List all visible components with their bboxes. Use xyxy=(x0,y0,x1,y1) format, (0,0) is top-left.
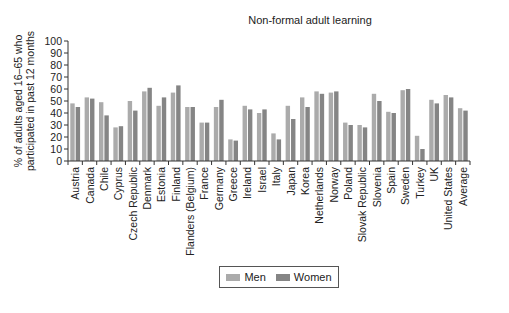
bar-women xyxy=(176,85,180,161)
bar-women xyxy=(377,101,381,161)
bar-men xyxy=(128,101,132,161)
bar-women xyxy=(162,97,166,161)
y-axis-label: % of adults aged 16–65 whoparticipated i… xyxy=(12,31,36,171)
x-category-label: Sweden xyxy=(399,167,411,205)
bar-men xyxy=(257,113,261,161)
bar-women xyxy=(305,107,309,161)
bar-men xyxy=(156,106,160,161)
bar-men xyxy=(458,108,462,161)
legend-swatch-women xyxy=(276,274,290,281)
y-tick-label: 20 xyxy=(50,131,62,143)
bar-men xyxy=(444,95,448,161)
bar-men xyxy=(415,136,419,161)
bar-women xyxy=(234,141,238,161)
x-category-label: Czech Republic xyxy=(127,167,139,241)
bar-men xyxy=(271,133,275,161)
bar-men xyxy=(343,123,347,161)
legend-label-women: Women xyxy=(294,271,332,283)
x-category-label: Poland xyxy=(342,167,354,200)
x-category-label: Norway xyxy=(328,166,340,202)
bar-women xyxy=(392,113,396,161)
x-category-label: Italy xyxy=(270,166,282,186)
x-category-label: Israel xyxy=(256,167,268,193)
bar-men xyxy=(85,97,89,161)
x-category-label: Netherlands xyxy=(313,167,325,224)
x-category-label: Greece xyxy=(227,167,239,202)
bar-women xyxy=(277,139,281,161)
bar-women xyxy=(191,107,195,161)
bar-men xyxy=(400,90,404,161)
x-category-label: Slovak Republic xyxy=(356,167,368,242)
bar-women xyxy=(76,107,80,161)
bar-men xyxy=(286,106,290,161)
bar-men xyxy=(386,112,390,161)
bar-women xyxy=(406,89,410,161)
bar-men xyxy=(70,103,74,161)
chart-title: Non-formal adult learning xyxy=(248,14,372,26)
bar-men xyxy=(357,125,361,161)
bar-women xyxy=(420,149,424,161)
bar-women xyxy=(334,91,338,161)
x-category-label: Cyprus xyxy=(112,167,124,200)
bar-men xyxy=(329,93,333,161)
bar-men xyxy=(300,97,304,161)
legend-swatch-men xyxy=(226,274,240,281)
x-category-label: Estonia xyxy=(155,167,167,202)
x-category-label: Austria xyxy=(69,167,81,200)
x-category-label: Spain xyxy=(385,167,397,194)
y-tick-label: 80 xyxy=(50,59,62,71)
bar-women xyxy=(90,99,94,161)
bar-women xyxy=(449,97,453,161)
bar-men xyxy=(99,102,103,161)
x-category-label: United States xyxy=(442,167,454,230)
x-category-label: Finland xyxy=(170,167,182,202)
y-tick-label: 90 xyxy=(50,47,62,59)
bar-women xyxy=(133,111,137,161)
y-tick-label: 100 xyxy=(44,35,62,47)
x-axis: AustriaCanadaChileCyprusCzech RepublicDe… xyxy=(68,161,470,256)
bar-women xyxy=(104,115,108,161)
bar-women xyxy=(348,125,352,161)
y-tick-label: 70 xyxy=(50,71,62,83)
bar-men xyxy=(243,106,247,161)
bar-women xyxy=(435,103,439,161)
y-axis-label-line: % of adults aged 16–65 who xyxy=(12,35,24,168)
y-axis: 0102030405060708090100 xyxy=(44,35,68,167)
bar-women xyxy=(262,109,266,161)
x-category-label: Denmark xyxy=(141,166,153,209)
x-category-label: Ireland xyxy=(241,167,253,199)
x-category-label: Korea xyxy=(299,167,311,195)
bar-men xyxy=(214,107,218,161)
bar-men xyxy=(429,100,433,161)
bar-women xyxy=(119,126,123,161)
y-tick-label: 40 xyxy=(50,107,62,119)
x-category-label: Germany xyxy=(213,166,225,210)
bar-men xyxy=(142,91,146,161)
x-category-label: UK xyxy=(428,167,440,182)
bar-women xyxy=(291,119,295,161)
legend-label-men: Men xyxy=(244,271,265,283)
legend-item-men: Men xyxy=(226,271,265,283)
bar-men xyxy=(228,139,232,161)
legend-item-women: Women xyxy=(276,271,332,283)
bar-men xyxy=(314,91,318,161)
bar-men xyxy=(199,123,203,161)
y-tick-label: 0 xyxy=(56,155,62,167)
bar-women xyxy=(248,109,252,161)
x-category-label: Turkey xyxy=(414,166,426,198)
y-axis-label-line: participated in past 12 months xyxy=(24,31,36,171)
bar-women xyxy=(219,100,223,161)
x-category-label: Chile xyxy=(98,167,110,191)
bar-men xyxy=(185,107,189,161)
bar-women xyxy=(147,88,151,161)
bar-women xyxy=(363,127,367,161)
legend: Men Women xyxy=(219,266,339,288)
x-category-label: Japan xyxy=(285,167,297,196)
x-category-label: Average xyxy=(457,167,469,206)
y-tick-label: 10 xyxy=(50,143,62,155)
x-category-label: Slovenia xyxy=(371,167,383,207)
y-tick-label: 30 xyxy=(50,119,62,131)
y-tick-label: 60 xyxy=(50,83,62,95)
y-tick-label: 50 xyxy=(50,95,62,107)
bar-men xyxy=(372,94,376,161)
